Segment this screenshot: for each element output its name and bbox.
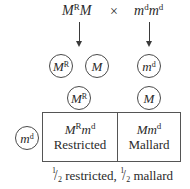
allele-sup: d (152, 60, 156, 69)
allele-base: M (71, 91, 82, 106)
allele-base: m (142, 59, 151, 74)
parent1-genotype: MRM (62, 4, 91, 18)
gamete-circle: M (85, 54, 109, 78)
caption-text: mallard (130, 168, 173, 183)
gamete-circle: MR (49, 54, 73, 78)
allele-base: M (80, 3, 92, 18)
offspring-genotype: MRmd (65, 123, 96, 136)
offspring-phenotype: Restricted (54, 138, 107, 151)
allele-base: m (134, 3, 144, 18)
caption-text: restricted, (62, 168, 120, 183)
allele-sup: R (64, 60, 69, 69)
allele-sup: R (82, 92, 87, 101)
punnett-cell: MRmd Restricted (43, 113, 118, 161)
allele-base: M (53, 59, 64, 74)
fraction: 1/2 (52, 170, 62, 182)
fraction: 1/2 (120, 170, 130, 182)
allele-base: M (144, 91, 155, 106)
offspring-phenotype: Mallard (128, 138, 169, 151)
allele-base: M (62, 3, 74, 18)
allele-base: m (20, 131, 29, 146)
cross-symbol: × (110, 5, 118, 19)
parent2-genotype: mdmd (134, 4, 163, 18)
ratio-caption: 1/2 restricted, 1/2 mallard (52, 169, 173, 182)
gamete-circle: MR (67, 86, 91, 110)
punnett-cell: Mmd Mallard (118, 113, 180, 161)
offspring-genotype: Mmd (137, 123, 162, 136)
allele-base: M (92, 59, 103, 74)
allele-sup: d (30, 132, 34, 141)
allele-base: m (149, 3, 159, 18)
allele-sup: d (159, 2, 164, 12)
gamete-circle: md (15, 126, 39, 150)
gamete-circle: md (137, 54, 161, 78)
gamete-circle: M (137, 86, 161, 110)
punnett-square: MRmd Restricted Mmd Mallard (42, 112, 181, 162)
